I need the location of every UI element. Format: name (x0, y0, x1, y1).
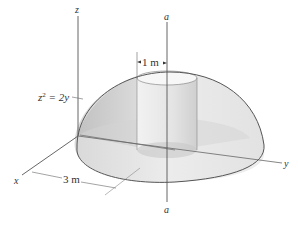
equation-leader (72, 97, 83, 99)
dim-3m-line-left (32, 172, 62, 178)
dim-1m-label: 1 m (142, 56, 159, 68)
arrow-left-icon (137, 61, 141, 64)
axis-a-top-label: a (164, 11, 169, 22)
paraboloid-diagram: 1 m 3 m z2 = 2y z x y a a (0, 0, 298, 230)
z-axis-label: z (74, 4, 79, 15)
y-axis-label: y (283, 158, 289, 169)
equation-label: z2 = 2y (37, 91, 69, 103)
x-axis-label: x (13, 175, 19, 186)
dim-3m-line-right (81, 182, 116, 188)
axis-a-bottom-label: a (164, 204, 169, 215)
dim-3m-label: 3 m (63, 173, 80, 185)
x-axis (22, 136, 78, 175)
arrow-right-icon (163, 62, 167, 65)
